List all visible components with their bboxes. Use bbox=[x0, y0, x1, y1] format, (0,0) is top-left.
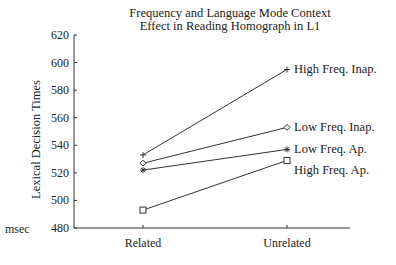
y-tick-label: 580 bbox=[51, 83, 69, 97]
x-tick-label: Related bbox=[125, 236, 162, 250]
y-tick-label: 500 bbox=[51, 193, 69, 207]
y-unit-label: msec bbox=[5, 222, 30, 236]
line-chart: 480500520540560580600620RelatedUnrelated… bbox=[0, 0, 396, 265]
y-tick-label: 520 bbox=[51, 166, 69, 180]
y-tick-label: 600 bbox=[51, 56, 69, 70]
y-tick-label: 540 bbox=[51, 138, 69, 152]
y-tick-label: 480 bbox=[51, 221, 69, 235]
series-label: High Freq. Inap. bbox=[294, 62, 377, 76]
y-axis-label: Lexical Decision Times bbox=[29, 80, 43, 199]
y-tick-label: 620 bbox=[51, 28, 69, 42]
series-label: Low Freq. Inap. bbox=[294, 120, 375, 134]
y-tick-label: 560 bbox=[51, 111, 69, 125]
series-label: Low Freq. Ap. bbox=[294, 142, 367, 156]
series-label: High Freq. Ap. bbox=[294, 163, 369, 177]
x-tick-label: Unrelated bbox=[263, 236, 310, 250]
